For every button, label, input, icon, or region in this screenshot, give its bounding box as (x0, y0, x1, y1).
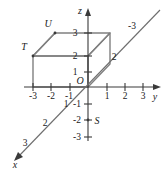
point-marker-T (32, 55, 35, 58)
x-tick-label-2: 2 (43, 118, 48, 128)
x-tick-label-3: 3 (23, 138, 28, 148)
point-label-U: U (44, 18, 52, 29)
z-tick-label-minus-2: -2 (73, 115, 81, 125)
point-label-T: T (21, 41, 28, 52)
axes-group (14, 8, 161, 161)
x-tick-label-negative-2: 2 (112, 52, 117, 62)
point-marker-U (54, 32, 57, 35)
origin-label: O (76, 75, 83, 86)
box-back-left-edge (33, 33, 55, 56)
diagram-svg: 3 2 1 -1 -2 -3 z -3 -2 -1 1 2 3 y 1 2 3 … (0, 0, 166, 170)
z-tick-label-minus-3: -3 (73, 132, 81, 142)
box-right-face (88, 33, 110, 87)
x-axis-line (18, 10, 160, 157)
y-tick-label-minus-3: -3 (29, 91, 37, 101)
z-axis-arrowhead (85, 8, 91, 16)
y-axis-label: y (152, 91, 158, 102)
point-marker-S (87, 119, 90, 122)
point-label-S: S (95, 115, 100, 126)
y-tick-label-1: 1 (105, 91, 110, 101)
x-axis-label: x (12, 159, 18, 170)
z-tick-label-minus-1: -1 (73, 99, 81, 109)
x-tick-label-1: 1 (64, 99, 69, 109)
z-tick-label-2: 2 (73, 51, 78, 61)
y-tick-label-2: 2 (123, 91, 128, 101)
z-tick-label-3: 3 (73, 28, 78, 38)
box-rectangular-prism (33, 33, 110, 87)
z-axis-label: z (77, 5, 82, 16)
x-tick-label-minus-3: -3 (128, 21, 136, 31)
y-tick-label-minus-2: -2 (47, 91, 55, 101)
y-tick-label-3: 3 (141, 91, 146, 101)
coordinate-diagram: 3 2 1 -1 -2 -3 z -3 -2 -1 1 2 3 y 1 2 3 … (0, 0, 166, 170)
y-axis-arrowhead (153, 84, 161, 90)
